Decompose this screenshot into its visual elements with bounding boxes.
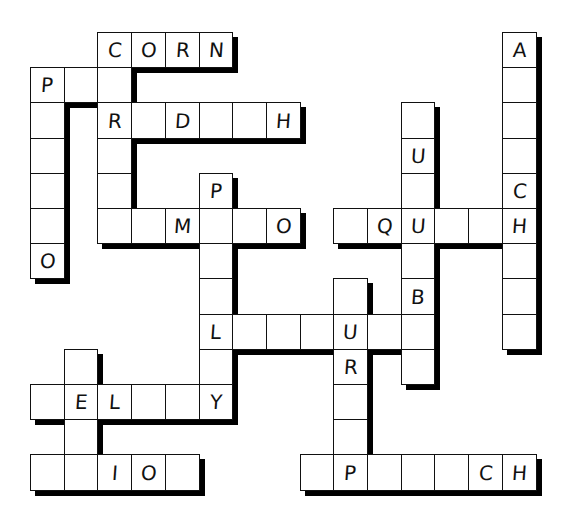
cell-letter: H — [275, 111, 291, 131]
cell-letter: D — [174, 111, 191, 131]
crossword-cell[interactable] — [434, 454, 469, 491]
crossword-cell[interactable] — [97, 173, 132, 209]
crossword-cell[interactable] — [502, 278, 537, 315]
crossword-cell[interactable]: O — [131, 32, 166, 68]
crossword-cell[interactable] — [401, 173, 435, 209]
crossword-cell[interactable] — [64, 67, 98, 103]
crossword-cell[interactable]: U — [401, 138, 435, 174]
cell-letter: Y — [209, 392, 223, 412]
crossword-cell[interactable] — [199, 102, 233, 139]
crossword-cell[interactable] — [300, 454, 334, 491]
crossword-grid: CORNAPRDHUPCMOQUHOBLURELYIOPCH — [0, 0, 571, 520]
crossword-cell[interactable] — [401, 102, 435, 139]
cell-letter: H — [511, 463, 527, 483]
cell-letter: R — [107, 111, 122, 131]
crossword-cell[interactable]: D — [165, 102, 200, 139]
crossword-cell[interactable] — [232, 314, 267, 350]
cell-letter: H — [511, 216, 527, 236]
cell-letter: M — [173, 216, 192, 236]
crossword-cell[interactable]: M — [165, 208, 200, 244]
crossword-cell[interactable]: R — [97, 102, 132, 139]
crossword-cell[interactable]: O — [266, 208, 301, 244]
crossword-cell[interactable] — [502, 138, 537, 174]
crossword-cell[interactable]: U — [401, 208, 435, 244]
crossword-cell[interactable]: Y — [199, 384, 233, 420]
crossword-cell[interactable] — [64, 419, 98, 455]
crossword-cell[interactable] — [199, 349, 233, 385]
crossword-cell[interactable] — [131, 384, 166, 420]
crossword-cell[interactable] — [30, 173, 65, 209]
crossword-cell[interactable]: L — [199, 314, 233, 350]
crossword-cell[interactable] — [30, 102, 65, 139]
crossword-cell[interactable] — [232, 102, 267, 139]
cell-letter: U — [342, 322, 358, 342]
crossword-cell[interactable]: L — [97, 384, 132, 420]
crossword-cell[interactable]: P — [199, 173, 233, 209]
crossword-cell[interactable]: H — [266, 102, 301, 139]
crossword-cell[interactable] — [502, 67, 537, 103]
crossword-cell[interactable]: I — [97, 454, 132, 491]
crossword-cell[interactable] — [333, 419, 368, 455]
crossword-cell[interactable]: O — [131, 454, 166, 491]
crossword-cell[interactable]: R — [333, 349, 368, 385]
crossword-cell[interactable] — [401, 349, 435, 385]
cell-letter: P — [209, 181, 222, 201]
crossword-cell[interactable] — [502, 102, 537, 139]
crossword-cell[interactable]: R — [165, 32, 200, 68]
cell-letter: O — [140, 40, 157, 60]
crossword-cell[interactable]: H — [502, 208, 537, 244]
crossword-cell[interactable] — [199, 278, 233, 315]
crossword-cell[interactable] — [232, 208, 267, 244]
crossword-cell[interactable] — [97, 138, 132, 174]
crossword-cell[interactable]: N — [199, 32, 233, 68]
crossword-cell[interactable]: O — [30, 243, 65, 279]
crossword-cell[interactable] — [97, 208, 132, 244]
crossword-cell[interactable] — [502, 314, 537, 350]
crossword-cell[interactable] — [64, 349, 98, 385]
cell-letter: L — [108, 392, 121, 412]
crossword-cell[interactable] — [97, 67, 132, 103]
crossword-cell[interactable] — [131, 208, 166, 244]
crossword-cell[interactable]: C — [468, 454, 503, 491]
crossword-cell[interactable] — [199, 243, 233, 279]
cell-letter: L — [210, 322, 223, 342]
crossword-cell[interactable]: P — [30, 67, 65, 103]
crossword-cell[interactable] — [64, 454, 98, 491]
crossword-cell[interactable] — [131, 102, 166, 139]
crossword-cell[interactable]: U — [333, 314, 368, 350]
cell-letter: R — [175, 40, 190, 60]
cell-letter: Q — [376, 216, 393, 236]
crossword-cell[interactable] — [367, 454, 402, 491]
cell-letter: N — [208, 40, 224, 60]
crossword-cell[interactable] — [502, 243, 537, 279]
crossword-cell[interactable] — [333, 208, 368, 244]
crossword-cell[interactable] — [333, 384, 368, 420]
crossword-cell[interactable] — [434, 208, 469, 244]
crossword-cell[interactable] — [300, 314, 334, 350]
cell-letter: P — [41, 75, 54, 95]
crossword-cell[interactable]: B — [401, 278, 435, 315]
crossword-cell[interactable] — [165, 384, 200, 420]
crossword-cell[interactable] — [30, 138, 65, 174]
crossword-cell[interactable] — [165, 454, 200, 491]
crossword-cell[interactable] — [468, 208, 503, 244]
crossword-cell[interactable] — [30, 454, 65, 491]
cell-letter: U — [410, 146, 426, 166]
cell-letter: C — [478, 463, 493, 483]
crossword-cell[interactable] — [266, 314, 301, 350]
crossword-cell[interactable] — [30, 208, 65, 244]
crossword-cell[interactable] — [401, 314, 435, 350]
crossword-cell[interactable]: P — [333, 454, 368, 491]
crossword-cell[interactable]: Q — [367, 208, 402, 244]
crossword-cell[interactable]: H — [502, 454, 537, 491]
crossword-cell[interactable]: C — [502, 173, 537, 209]
crossword-cell[interactable]: C — [97, 32, 132, 68]
crossword-cell[interactable] — [30, 384, 65, 420]
crossword-cell[interactable] — [367, 314, 402, 350]
crossword-cell[interactable]: E — [64, 384, 98, 420]
crossword-cell[interactable] — [401, 243, 435, 279]
crossword-cell[interactable] — [401, 454, 435, 491]
crossword-cell[interactable] — [333, 278, 368, 315]
crossword-cell[interactable]: A — [502, 32, 537, 68]
crossword-cell[interactable] — [199, 208, 233, 244]
